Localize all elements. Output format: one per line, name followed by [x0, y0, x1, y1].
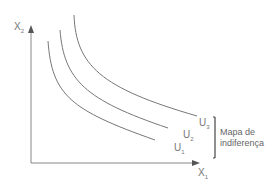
x-axis-arrow-icon [192, 160, 200, 166]
bracket-label: Mapa de indiferença [220, 127, 264, 149]
x-axis-label: X1 [198, 168, 208, 180]
curve-label-u3: U3 [199, 118, 210, 130]
bracket-label-line2: indiferença [220, 138, 264, 149]
curve-label-u2: U2 [183, 130, 194, 142]
curve-u2 [60, 30, 168, 128]
curve-label-u1: U1 [174, 143, 185, 155]
bracket-label-line1: Mapa de [220, 127, 264, 138]
diagram-graphics [0, 0, 275, 185]
curve-u3 [74, 15, 197, 116]
indifference-map-diagram: X2 X1 U1 U2 U3 Mapa de indiferença [0, 0, 275, 185]
y-axis-arrow-icon [28, 25, 34, 33]
y-axis-label: X2 [14, 22, 24, 34]
